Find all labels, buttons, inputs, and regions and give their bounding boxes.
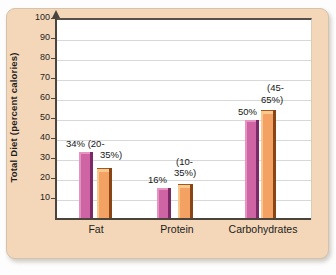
bar-annotation: 35%) — [100, 149, 122, 160]
y-axis-tick-mark — [51, 78, 55, 79]
bar-annotation: 50% — [238, 106, 257, 117]
bar-protein-orange — [178, 184, 193, 220]
bar-carbohydrates-pink — [245, 120, 259, 220]
bar-annotation: 34% (20- — [66, 138, 105, 149]
y-axis-tick-mark — [51, 198, 55, 199]
y-axis-tick-mark — [51, 118, 55, 119]
y-axis-line — [55, 14, 57, 220]
bar-carbohydrates-orange — [261, 110, 276, 220]
y-axis-tick-mark — [51, 38, 55, 39]
y-axis-tick-mark — [51, 98, 55, 99]
x-category-label-carbohydrates: Carbohydrates — [213, 223, 313, 235]
y-axis-tick-label: 90 — [24, 32, 50, 42]
bar-annotation: (45- — [267, 82, 284, 93]
y-axis-tick-mark — [51, 158, 55, 159]
x-category-label-protein: Protein — [127, 223, 227, 235]
y-axis-tick-label: 70 — [24, 72, 50, 82]
y-axis-tick-label: 10 — [24, 192, 50, 202]
gridline — [57, 60, 311, 61]
gridline — [57, 40, 311, 41]
y-axis-tick-label: 50 — [24, 112, 50, 122]
bar-protein-pink — [157, 188, 171, 220]
y-axis-arrow-icon — [52, 10, 60, 18]
y-axis-tick-label: 100 — [24, 12, 50, 22]
x-axis-line — [55, 218, 311, 220]
y-axis-tick-label: 40 — [24, 132, 50, 142]
plot-area — [57, 18, 312, 220]
bar-annotation: 65%) — [261, 94, 283, 105]
y-axis-tick-label: 20 — [24, 172, 50, 182]
bar-annotation: (10- — [176, 156, 193, 167]
y-axis-tick-mark — [51, 178, 55, 179]
y-axis-tick-mark — [51, 18, 55, 19]
bar-fat-orange — [97, 168, 112, 220]
y-axis-tick-mark — [51, 138, 55, 139]
y-axis-title: Total Diet (percent calories) — [8, 12, 19, 224]
bar-fat-pink — [79, 152, 93, 220]
bar-annotation: 16% — [148, 174, 167, 185]
y-axis-tick-label: 60 — [24, 92, 50, 102]
gridline — [57, 80, 311, 81]
y-axis-tick-label: 30 — [24, 152, 50, 162]
y-axis-tick-label: 80 — [24, 52, 50, 62]
figure-panel: Total Diet (percent calories) 1020304050… — [0, 0, 336, 275]
bar-annotation: 35%) — [174, 167, 196, 178]
y-axis-tick-mark — [51, 58, 55, 59]
